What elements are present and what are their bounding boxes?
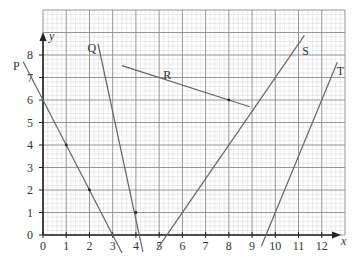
x-axis-label: x: [340, 234, 347, 248]
x-tick-label: 9: [249, 239, 255, 253]
y-tick-label: 2: [27, 183, 33, 197]
x-tick-label: 7: [203, 239, 209, 253]
line-label-t: T: [337, 64, 345, 78]
line-p: [23, 62, 122, 253]
line-label-q: Q: [87, 41, 96, 55]
x-tick-label: 4: [133, 239, 139, 253]
point-marker: [135, 211, 138, 214]
tick-labels: 0123456789101112012345678: [27, 48, 328, 253]
line-r: [122, 66, 250, 107]
axes: x y: [40, 29, 348, 248]
plot-area: x y 0123456789101112012345678 PQRST: [0, 0, 354, 260]
x-tick-label: 8: [226, 239, 232, 253]
y-tick-label: 8: [27, 48, 33, 62]
x-tick-label: 1: [63, 239, 69, 253]
y-axis-label: y: [48, 29, 55, 43]
x-tick-label: 12: [316, 239, 328, 253]
x-axis-arrow-icon: [332, 232, 341, 239]
line-label-r: R: [163, 68, 171, 82]
y-tick-label: 7: [27, 71, 33, 85]
x-tick-label: 11: [293, 239, 305, 253]
y-tick-label: 6: [27, 93, 33, 107]
data-lines: [23, 35, 337, 253]
coordinate-grid-figure: x y 0123456789101112012345678 PQRST: [0, 0, 354, 260]
x-tick-label: 2: [86, 239, 92, 253]
x-tick-label: 6: [179, 239, 185, 253]
y-tick-label: 5: [27, 116, 33, 130]
x-tick-label: 10: [269, 239, 281, 253]
line-labels: PQRST: [13, 41, 345, 82]
x-tick-label: 0: [40, 239, 46, 253]
y-axis-arrow-icon: [40, 32, 47, 41]
line-label-s: S: [302, 44, 309, 58]
point-marker: [227, 99, 230, 102]
y-tick-label: 0: [27, 228, 33, 242]
y-tick-label: 1: [27, 206, 33, 220]
point-marker: [65, 144, 68, 147]
x-tick-label: 3: [110, 239, 116, 253]
line-s: [157, 35, 305, 249]
y-tick-label: 3: [27, 161, 33, 175]
y-tick-label: 4: [27, 138, 33, 152]
line-label-p: P: [13, 59, 20, 73]
point-marker: [88, 189, 91, 192]
